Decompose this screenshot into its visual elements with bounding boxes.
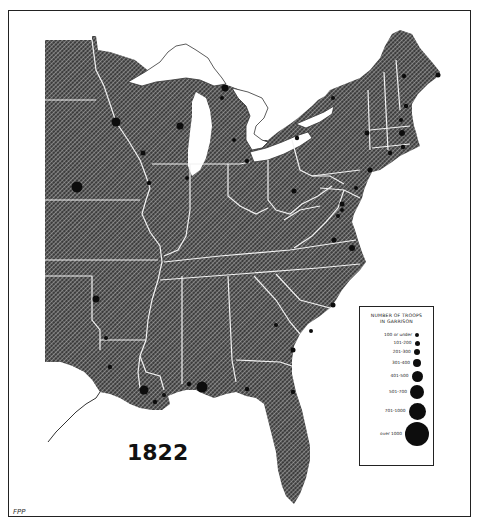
- garrison-marker: [331, 303, 336, 308]
- legend-item-label: 401-500: [391, 373, 409, 378]
- garrison-marker: [93, 296, 100, 303]
- legend-title: NUMBER OF TROOPS IN GARRISON: [360, 313, 433, 325]
- garrison-marker: [401, 145, 405, 149]
- garrison-marker: [399, 118, 403, 122]
- garrison-marker: [72, 182, 83, 193]
- garrison-marker: [349, 245, 355, 251]
- legend-title-line2: IN GARRISON: [360, 319, 433, 325]
- legend-item-label: 701-1000: [385, 408, 406, 413]
- garrison-marker: [232, 138, 236, 142]
- legend-item-label: 201-300: [393, 349, 411, 354]
- garrison-marker: [147, 181, 151, 185]
- garrison-marker: [404, 104, 408, 108]
- garrison-marker: [295, 136, 299, 140]
- garrison-marker: [309, 329, 313, 333]
- legend-item-label: 100 or under: [384, 332, 412, 337]
- legend-circle-icon: [414, 349, 421, 356]
- garrison-marker: [291, 348, 296, 353]
- garrison-marker: [177, 123, 184, 130]
- garrison-marker: [245, 159, 249, 163]
- legend-circle-icon: [410, 385, 424, 399]
- legend-circle-icon: [405, 422, 429, 446]
- garrison-marker: [141, 151, 146, 156]
- legend-circle-icon: [409, 403, 426, 420]
- garrison-marker: [187, 382, 191, 386]
- legend-box: NUMBER OF TROOPS IN GARRISON 100 or unde…: [359, 306, 434, 466]
- garrison-marker: [365, 131, 370, 136]
- legend-item-label: 101-200: [394, 340, 412, 345]
- garrison-marker: [112, 118, 121, 127]
- garrison-marker: [340, 202, 345, 207]
- garrison-marker: [331, 96, 335, 100]
- legend-item-label: over 1000: [380, 431, 402, 436]
- garrison-marker: [291, 390, 295, 394]
- legend-circle-icon: [415, 341, 420, 346]
- garrison-marker: [153, 400, 157, 404]
- garrison-marker: [340, 208, 344, 212]
- garrison-marker: [336, 214, 340, 218]
- garrison-marker: [332, 238, 337, 243]
- garrison-marker: [436, 73, 441, 78]
- garrison-marker: [245, 387, 249, 391]
- garrison-marker: [220, 96, 224, 100]
- garrison-marker: [185, 176, 189, 180]
- legend-item-label: 501-700: [389, 389, 407, 394]
- garrison-marker: [140, 386, 149, 395]
- legend-circle-icon: [412, 371, 423, 382]
- garrison-marker: [104, 336, 108, 340]
- garrison-marker: [388, 151, 392, 155]
- map-year-label: 1822: [127, 440, 188, 465]
- map-credit: FPP: [13, 508, 25, 516]
- legend-circle-icon: [415, 333, 419, 337]
- garrison-marker: [222, 85, 229, 92]
- garrison-marker: [197, 382, 208, 393]
- garrison-marker: [399, 130, 405, 136]
- garrison-marker: [292, 189, 297, 194]
- legend-circle-icon: [413, 359, 421, 367]
- garrison-marker: [402, 74, 406, 78]
- garrison-marker: [368, 168, 373, 173]
- garrison-marker: [108, 365, 112, 369]
- garrison-marker: [162, 393, 166, 397]
- legend-item-label: 301-400: [392, 360, 410, 365]
- garrison-marker: [274, 323, 278, 327]
- garrison-marker: [354, 186, 358, 190]
